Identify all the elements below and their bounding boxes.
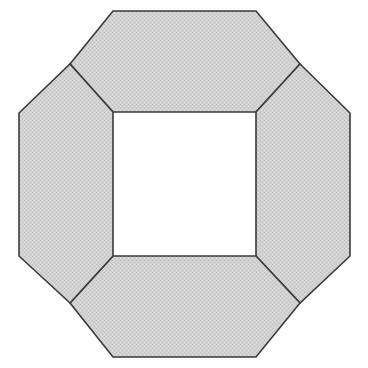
bottom-piece[interactable] [70,256,300,357]
right-piece[interactable] [256,64,350,303]
left-piece[interactable] [19,64,113,303]
octagon-ring-figure: Octagonal ring divided into four congrue… [0,0,368,368]
figure-stage: Octagonal ring divided into four congrue… [0,0,368,368]
top-piece[interactable] [70,11,300,112]
